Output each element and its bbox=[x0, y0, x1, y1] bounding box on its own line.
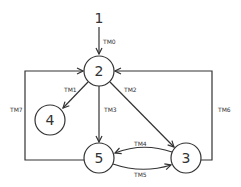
edge-tm3: TM3 bbox=[99, 86, 117, 142]
edge-tm1: TM1 bbox=[63, 82, 88, 108]
edge-tm4: TM4 bbox=[115, 140, 172, 153]
edge-tm0: TM0 bbox=[99, 27, 116, 54]
edge-tm2: TM2 bbox=[110, 82, 174, 147]
node-3: 3 bbox=[171, 143, 201, 173]
edge-label-tm5: TM5 bbox=[133, 171, 147, 178]
edge-label-tm4: TM4 bbox=[133, 140, 147, 147]
edge-label-tm7: TM7 bbox=[9, 106, 23, 113]
edge-label-tm0: TM0 bbox=[102, 38, 116, 45]
state-diagram: TM0 TM1 TM2 TM3 TM4 TM5 TM6 TM7 1 2 3 bbox=[0, 0, 241, 187]
edge-tm5: TM5 bbox=[113, 164, 171, 178]
node-label-5: 5 bbox=[95, 150, 104, 166]
node-label-4: 4 bbox=[46, 112, 55, 128]
node-4: 4 bbox=[35, 105, 65, 135]
node-1: 1 bbox=[95, 10, 104, 26]
node-2: 2 bbox=[84, 56, 114, 86]
node-label-1: 1 bbox=[95, 10, 104, 26]
edge-label-tm1: TM1 bbox=[63, 86, 77, 93]
node-5: 5 bbox=[84, 143, 114, 173]
node-label-3: 3 bbox=[182, 150, 191, 166]
edge-label-tm3: TM3 bbox=[103, 106, 117, 113]
edge-label-tm6: TM6 bbox=[217, 106, 231, 113]
edge-label-tm2: TM2 bbox=[123, 86, 137, 93]
node-label-2: 2 bbox=[95, 63, 104, 79]
